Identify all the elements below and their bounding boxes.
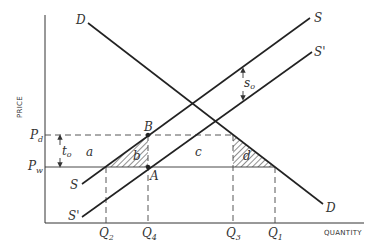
x-axis-label: QUANTITY: [324, 229, 362, 237]
demand-label-bottom: D: [325, 201, 336, 215]
q1-label: Q1: [268, 226, 283, 242]
q3-label: Q3: [226, 226, 241, 242]
area-a-label: a: [86, 145, 93, 159]
demand-curve: [88, 23, 323, 204]
area-c-label: c: [195, 145, 202, 159]
point-a-label: A: [149, 169, 159, 183]
supply-shifted-curve: [82, 52, 312, 217]
q4-label: Q4: [142, 226, 157, 242]
demand-label-top: D: [75, 13, 86, 27]
supply-label-bottom: S: [70, 178, 78, 192]
pd-label: Pd: [29, 128, 43, 144]
pw-label: Pw: [27, 159, 43, 175]
subsidy-label: so: [244, 76, 255, 91]
supply-label-top: S: [314, 11, 322, 25]
y-axis-label: PRICE: [16, 96, 24, 118]
area-d-label: d: [243, 149, 251, 163]
supply-shifted-label-top: S': [314, 45, 326, 59]
welfare-diagram: PRICE QUANTITY Pd Pw Q2 Q4 Q3 Q1 D D S S…: [0, 0, 382, 249]
area-b-label: b: [133, 149, 141, 163]
supply-curve: [82, 18, 310, 184]
tariff-label: to: [62, 144, 72, 159]
supply-shifted-label-bottom: S': [68, 209, 80, 223]
q2-label: Q2: [99, 226, 114, 242]
point-b-label: B: [143, 120, 153, 134]
